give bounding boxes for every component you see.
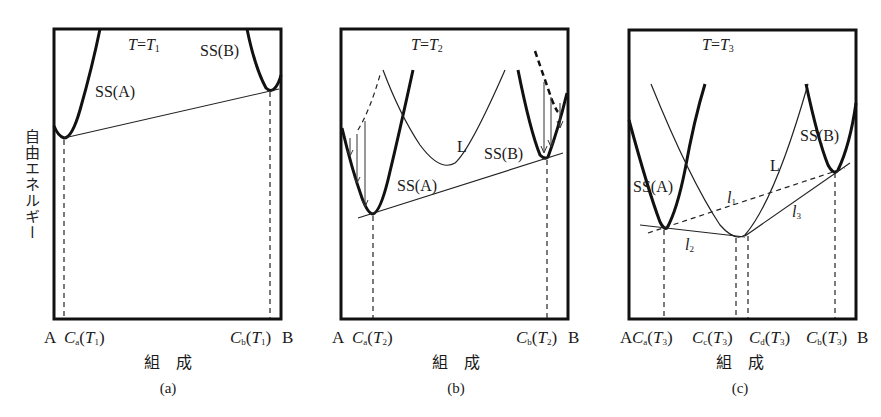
panel-c-tick-cd: Cd(T3): [749, 328, 790, 347]
panel-b-common-tangent: [358, 153, 563, 218]
panel-b-x-axis-title: 組 成: [432, 354, 480, 371]
panel-b: T=T2 SS(A): [332, 29, 579, 397]
panel-a-axis-B: B: [282, 328, 293, 347]
panel-a-caption: (a): [160, 380, 177, 397]
panel-a-ss-a-curve: [54, 29, 100, 138]
panel-a-ss-a-label: SS(A): [95, 83, 135, 101]
panel-b-ss-a-label: SS(A): [397, 177, 437, 195]
panel-b-tick-ca: Ca(T2): [352, 328, 393, 347]
panel-b-tick-cb: Cb(T2): [516, 328, 557, 347]
panel-b-ss-b-dashed-extension: [535, 51, 558, 112]
panel-c-l1-label: l1: [727, 189, 736, 207]
panel-b-axis-B: B: [568, 328, 579, 347]
panel-c-temperature-label: T=T3: [702, 36, 734, 54]
y-axis-label: 自由エネルギー: [20, 115, 44, 255]
panel-c-tick-ca: Ca(T3): [632, 328, 673, 347]
panel-a-frame: [54, 29, 281, 319]
panel-c-tick-cc: Cc(T3): [692, 328, 733, 347]
panel-b-caption: (b): [447, 380, 465, 397]
panel-a-tick-cb: Cb(T1): [230, 328, 271, 347]
panel-a-temperature-label: T=T1: [128, 36, 160, 54]
panel-b-temperature-label: T=T2: [411, 36, 443, 54]
panel-a-axis-A: A: [44, 328, 57, 347]
panel-c-liquid-label: L: [770, 157, 780, 174]
panel-c: T=T3 SS(A) L SS(B) l1 l2 l3 A: [620, 30, 868, 397]
panel-c-l3-label: l3: [792, 203, 801, 221]
panel-c-tick-cb: Cb(T3): [806, 328, 847, 347]
panel-b-ss-b-label: SS(B): [484, 145, 523, 163]
panel-a-ss-b-curve: [247, 29, 281, 91]
panel-c-l2-label: l2: [685, 236, 694, 254]
panel-b-frame: [341, 29, 568, 319]
panel-b-ss-a-dashed-extension: [358, 75, 380, 130]
panel-a-x-axis-title: 組 成: [144, 354, 192, 371]
panel-c-ss-b-label: SS(B): [800, 127, 839, 145]
panel-c-caption: (c): [732, 380, 749, 397]
panel-c-tangent-l3: [745, 163, 850, 236]
panel-a-tick-ca: Ca(T1): [64, 328, 105, 347]
panel-c-axis-B: B: [857, 328, 868, 347]
panel-c-tangent-l2: [640, 225, 745, 237]
panel-c-ss-a-label: SS(A): [633, 178, 673, 196]
panel-c-ss-a-curve: [629, 84, 705, 228]
panel-b-axis-A: A: [332, 328, 345, 347]
panel-a-ss-b-label: SS(B): [200, 42, 239, 60]
panel-c-frame: [629, 30, 856, 319]
panel-a: T=T1 SS(A) SS(B) A Ca(T1) Cb(T1) B 組 成 (…: [44, 29, 293, 397]
panel-c-x-axis-title: 組 成: [716, 354, 764, 371]
panel-b-liquid-label: L: [457, 138, 467, 155]
free-energy-composition-figure: 自由エネルギー T=T1 SS(A) SS(B) A Ca(T1) Cb(T1)…: [0, 0, 881, 417]
